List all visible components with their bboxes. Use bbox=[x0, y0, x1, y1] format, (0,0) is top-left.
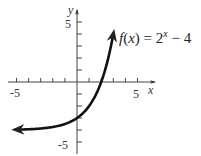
function-label: f(x) = 2x − 4 bbox=[119, 28, 192, 47]
y-tick-label-5: 5 bbox=[65, 17, 71, 31]
y-tick-label-neg5: -5 bbox=[58, 138, 68, 152]
x-tick-label-neg5: -5 bbox=[10, 86, 20, 100]
y-axis: 5 -5 y bbox=[58, 3, 82, 154]
x-axis-label: x bbox=[147, 83, 154, 97]
x-axis: -5 5 x bbox=[8, 78, 155, 101]
exponential-function-graph: -5 5 x 5 -5 y f(x) = 2x − 4 bbox=[0, 0, 201, 156]
y-axis-label: y bbox=[67, 3, 74, 17]
x-tick-label-5: 5 bbox=[133, 87, 139, 101]
